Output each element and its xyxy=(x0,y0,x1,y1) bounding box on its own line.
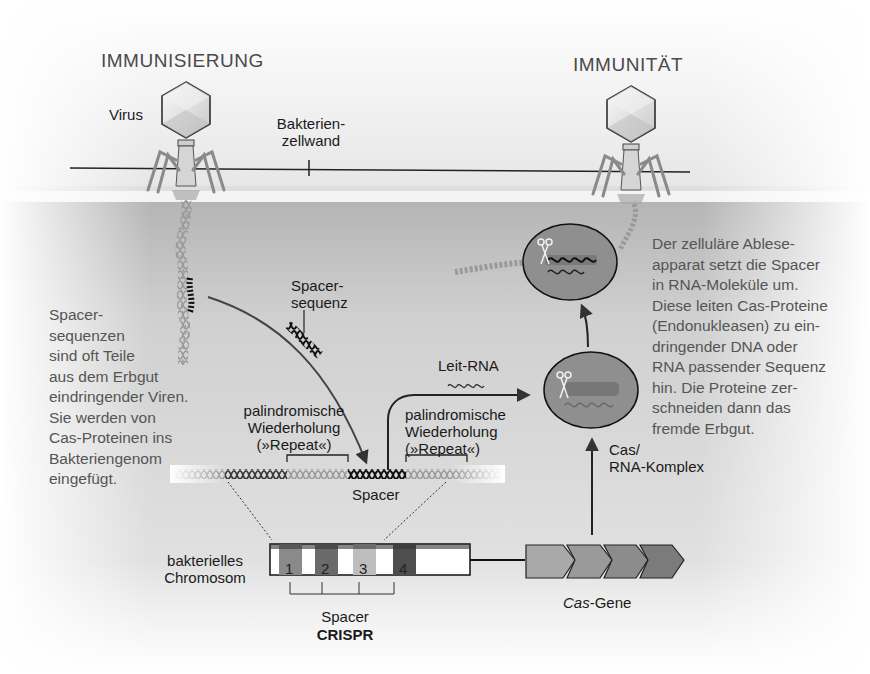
label-crispr: CRISPR xyxy=(310,626,380,643)
header-immunity: IMMUNITÄT xyxy=(573,54,683,76)
paragraph-immunity: Der zelluläre Ablese- apparat setzt die … xyxy=(652,234,828,439)
label-guide-rna: Leit-RNA xyxy=(438,357,499,374)
label-cas-rna-complex: Cas/ RNA-Komplex xyxy=(609,441,704,475)
label-repeat-left: palindromische Wiederholung (»Repeat«) xyxy=(234,402,354,453)
cas-rna-complex xyxy=(544,352,638,428)
spacer-number-3: 3 xyxy=(359,560,367,577)
crispr-diagram: IMMUNISIERUNG IMMUNITÄT Virus Bakterien-… xyxy=(0,0,870,674)
label-repeat-right: palindromische Wiederholung (»Repeat«) xyxy=(405,406,506,457)
label-chromosome: bakterielles Chromosom xyxy=(150,552,260,586)
label-cell-wall: Bakterien- zellwand xyxy=(266,115,356,149)
spacer-number-2: 2 xyxy=(321,560,329,577)
label-spacer: Spacer xyxy=(352,486,400,503)
label-spacer-bottom: Spacer xyxy=(310,608,380,625)
header-immunization: IMMUNISIERUNG xyxy=(101,50,264,72)
label-virus: Virus xyxy=(109,106,143,123)
spacer-number-1: 1 xyxy=(285,560,293,577)
label-spacer-sequence: Spacer- sequenz xyxy=(291,277,348,311)
label-cas-genes: Cas-Gene xyxy=(563,594,631,611)
spacer-number-4: 4 xyxy=(399,560,407,577)
paragraph-immunization: Spacer- sequenzen sind oft Teile aus dem… xyxy=(49,305,188,490)
